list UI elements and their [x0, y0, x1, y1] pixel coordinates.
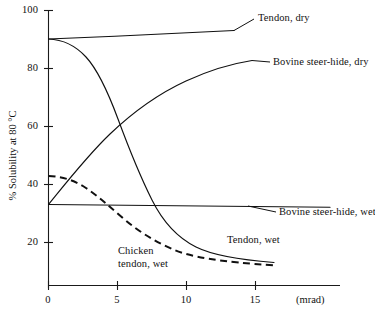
y-tick-label-100: 100 [12, 4, 38, 15]
series-label-chicken-tendon-wet: Chicken tendon, wet [118, 245, 168, 270]
leader-bovine-dry [252, 61, 270, 63]
series-label-bovine-steer-hide-wet: Bovine steer-hide, wet [279, 206, 375, 219]
series-label-chicken-tendon-wet-line2: tendon, wet [118, 258, 168, 271]
x-tick-label-0: 0 [36, 294, 60, 305]
curve-bovine-steer-hide-dry [49, 61, 253, 205]
x-axis-unit-label: (mrad) [296, 294, 325, 305]
curve-tendon-dry [49, 31, 235, 40]
x-tick-label-15: 15 [243, 294, 267, 305]
series-label-tendon-wet: Tendon, wet [227, 234, 280, 247]
y-axis-title: % Solubility at 80 °C [7, 91, 18, 221]
y-tick-label-80: 80 [12, 62, 38, 73]
y-tick-label-20: 20 [12, 236, 38, 247]
x-tick-label-10: 10 [174, 294, 198, 305]
series-label-chicken-tendon-wet-line1: Chicken [118, 245, 168, 258]
x-tick-label-5: 5 [105, 294, 129, 305]
series-label-bovine-steer-hide-dry: Bovine steer-hide, dry [273, 56, 369, 69]
leader-tendon-dry [234, 19, 254, 31]
solubility-chart-figure: 100 80 60 40 20 0 5 10 15 (mrad) % Solub… [0, 0, 375, 318]
series-label-tendon-dry: Tendon, dry [258, 12, 310, 25]
curve-tendon-wet [49, 39, 275, 263]
chart-plot-area [0, 0, 375, 318]
